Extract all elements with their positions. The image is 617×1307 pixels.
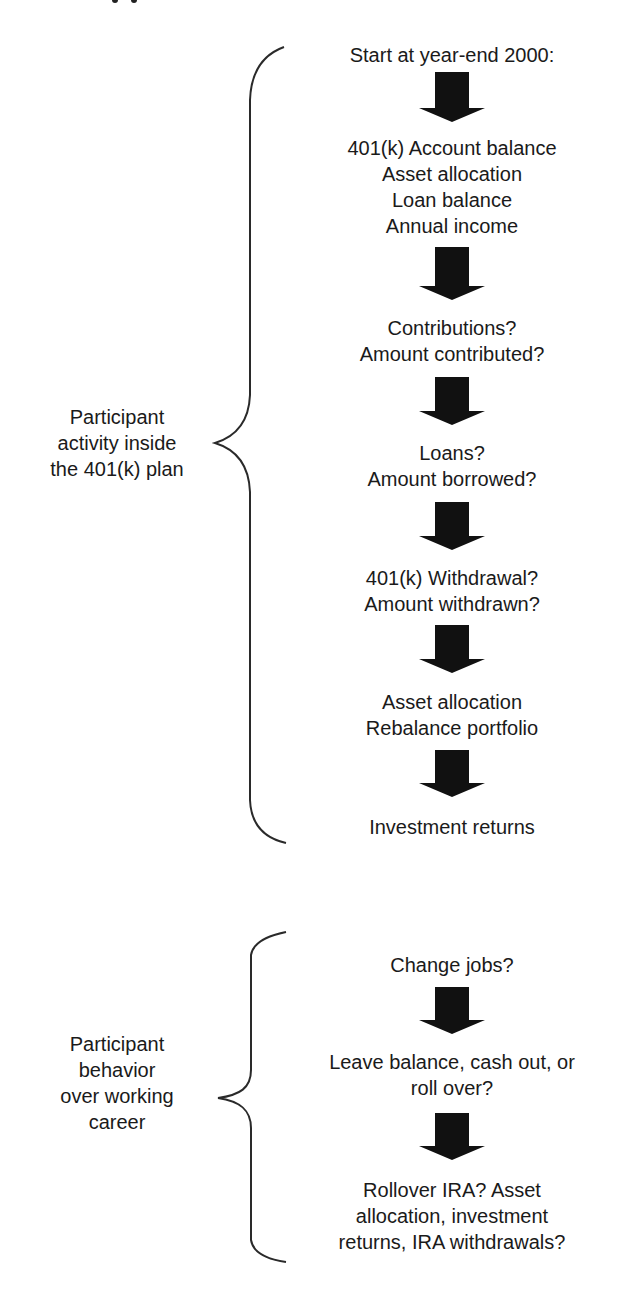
down-arrow-icon: [419, 377, 485, 425]
step-line: Contributions?: [302, 315, 602, 341]
step-rollover-ira: Rollover IRA? Asset allocation, investme…: [302, 1177, 602, 1255]
step-withdrawal: 401(k) Withdrawal? Amount withdrawn?: [302, 565, 602, 617]
step-investment-returns: Investment returns: [302, 814, 602, 840]
step-line: Rebalance portfolio: [302, 715, 602, 741]
down-arrow-icon: [419, 247, 485, 300]
down-arrow-icon: [419, 987, 485, 1034]
step-line: returns, IRA withdrawals?: [302, 1229, 602, 1255]
step-line: 401(k) Account balance: [302, 135, 602, 161]
section-label-career-behavior: Participant behavior over working career: [22, 1031, 212, 1135]
step-contributions: Contributions? Amount contributed?: [302, 315, 602, 367]
label-line: over working: [22, 1083, 212, 1109]
left-curly-brace-icon: [215, 47, 286, 843]
label-line: Participant: [22, 404, 212, 430]
step-line: Amount withdrawn?: [302, 591, 602, 617]
label-line: career: [22, 1109, 212, 1135]
step-line: Amount borrowed?: [302, 466, 602, 492]
step-change-jobs: Change jobs?: [302, 952, 602, 978]
left-curly-brace-icon: [218, 932, 286, 1262]
step-line: Rollover IRA? Asset: [302, 1177, 602, 1203]
step-line: Asset allocation: [302, 161, 602, 187]
label-line: Participant: [22, 1031, 212, 1057]
down-arrow-icon: [419, 72, 485, 122]
down-arrow-icon: [419, 750, 485, 797]
step-line: allocation, investment: [302, 1203, 602, 1229]
step-line: Leave balance, cash out, or: [302, 1049, 602, 1075]
step-account-state: 401(k) Account balance Asset allocation …: [302, 135, 602, 239]
step-line: Change jobs?: [302, 952, 602, 978]
step-line: roll over?: [302, 1075, 602, 1101]
step-line: Loan balance: [302, 187, 602, 213]
step-line: Annual income: [302, 213, 602, 239]
step-loans: Loans? Amount borrowed?: [302, 440, 602, 492]
label-line: behavior: [22, 1057, 212, 1083]
step-line: Investment returns: [302, 814, 602, 840]
section-label-in-plan-activity: Participant activity inside the 401(k) p…: [22, 404, 212, 482]
step-start: Start at year-end 2000:: [302, 42, 602, 68]
step-leave-cashout-rollover: Leave balance, cash out, or roll over?: [302, 1049, 602, 1101]
flowchart-canvas: Participant activity inside the 401(k) p…: [0, 0, 617, 1307]
label-line: activity inside: [22, 430, 212, 456]
step-line: Start at year-end 2000:: [302, 42, 602, 68]
down-arrow-icon: [419, 502, 485, 550]
step-line: Loans?: [302, 440, 602, 466]
step-line: Asset allocation: [302, 689, 602, 715]
down-arrow-icon: [419, 1113, 485, 1160]
step-line: Amount contributed?: [302, 341, 602, 367]
step-line: 401(k) Withdrawal?: [302, 565, 602, 591]
label-line: the 401(k) plan: [22, 456, 212, 482]
step-rebalance: Asset allocation Rebalance portfolio: [302, 689, 602, 741]
down-arrow-icon: [419, 625, 485, 673]
